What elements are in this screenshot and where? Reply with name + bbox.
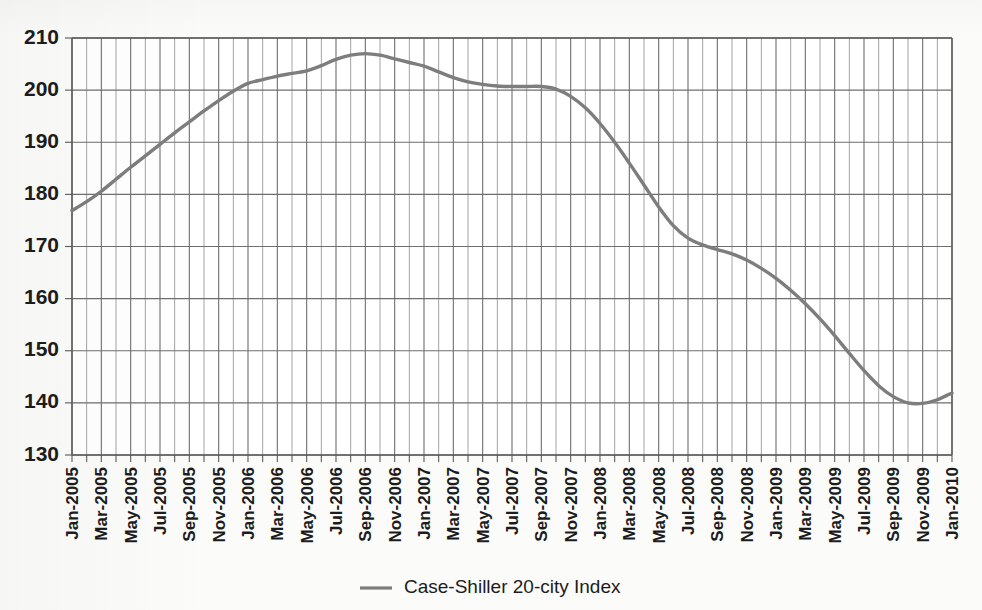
x-tick-label-jan-2009: Jan-2009	[767, 467, 786, 540]
y-tick-label-180: 180	[24, 181, 59, 204]
x-tick-label-jan-2006: Jan-2006	[239, 467, 258, 540]
y-tick-label-130: 130	[24, 442, 59, 465]
x-tick-label-jul-2005: Jul-2005	[151, 467, 170, 535]
x-tick-label-jul-2007: Jul-2007	[503, 467, 522, 535]
case-shiller-line-chart: 130140150160170180190200210 Jan-2005Mar-…	[0, 0, 982, 610]
x-tick-label-nov-2005: Nov-2005	[210, 467, 229, 543]
x-tick-label-jul-2008: Jul-2008	[679, 467, 698, 535]
legend-label-0: Case-Shiller 20-city Index	[404, 576, 621, 597]
x-tick-label-jan-2005: Jan-2005	[63, 467, 82, 540]
x-tick-label-jul-2009: Jul-2009	[855, 467, 874, 535]
x-tick-label-nov-2007: Nov-2007	[562, 467, 581, 543]
x-tick-label-jul-2006: Jul-2006	[327, 467, 346, 535]
x-axis-tick-labels: Jan-2005Mar-2005May-2005Jul-2005Sep-2005…	[63, 467, 962, 544]
x-tick-label-may-2006: May-2006	[298, 467, 317, 544]
y-tick-label-170: 170	[24, 233, 59, 256]
chart-legend: Case-Shiller 20-city Index	[360, 576, 621, 597]
x-tick-label-jan-2010: Jan-2010	[943, 467, 962, 540]
x-tick-label-jan-2007: Jan-2007	[415, 467, 434, 540]
x-tick-label-may-2007: May-2007	[474, 467, 493, 544]
x-tick-label-mar-2008: Mar-2008	[620, 467, 639, 541]
y-tick-label-210: 210	[24, 25, 59, 48]
chart-canvas: 130140150160170180190200210 Jan-2005Mar-…	[0, 0, 982, 610]
y-tick-label-160: 160	[24, 285, 59, 308]
x-tick-label-sep-2006: Sep-2006	[356, 467, 375, 542]
x-tick-label-nov-2008: Nov-2008	[738, 467, 757, 543]
x-tick-label-sep-2007: Sep-2007	[532, 467, 551, 542]
x-tick-label-may-2008: May-2008	[650, 467, 669, 544]
x-tick-label-sep-2005: Sep-2005	[180, 467, 199, 542]
x-tick-label-jan-2008: Jan-2008	[591, 467, 610, 540]
x-tick-label-may-2005: May-2005	[122, 467, 141, 544]
x-tick-label-sep-2009: Sep-2009	[884, 467, 903, 542]
y-tick-label-140: 140	[24, 389, 59, 412]
y-tick-label-190: 190	[24, 129, 59, 152]
x-tick-label-mar-2005: Mar-2005	[92, 467, 111, 541]
y-tick-label-150: 150	[24, 337, 59, 360]
y-axis-tick-labels: 130140150160170180190200210	[24, 25, 59, 465]
x-tick-label-mar-2006: Mar-2006	[268, 467, 287, 541]
x-tick-label-nov-2006: Nov-2006	[386, 467, 405, 543]
x-tick-label-nov-2009: Nov-2009	[914, 467, 933, 543]
x-tick-label-mar-2007: Mar-2007	[444, 467, 463, 541]
x-tick-label-mar-2009: Mar-2009	[796, 467, 815, 541]
y-tick-label-200: 200	[24, 77, 59, 100]
x-tick-label-may-2009: May-2009	[826, 467, 845, 544]
x-tick-label-sep-2008: Sep-2008	[708, 467, 727, 542]
